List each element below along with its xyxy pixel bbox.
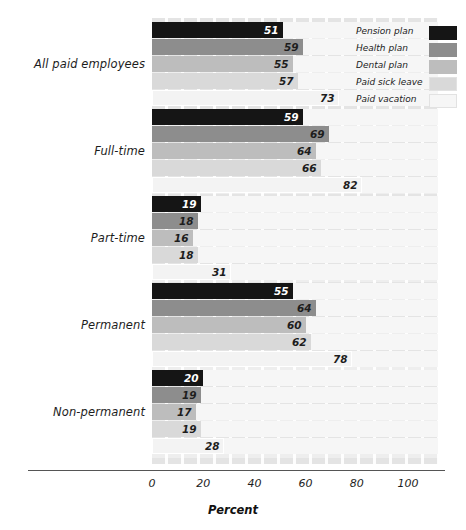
bar-row: 82	[152, 177, 438, 193]
legend-label: Dental plan	[356, 60, 408, 70]
legend-swatch	[429, 60, 457, 74]
bar-value-label: 28	[205, 439, 220, 453]
bar-value-label: 51	[264, 23, 279, 37]
bar-value-label: 31	[212, 265, 227, 279]
bar-row: 19	[152, 387, 438, 403]
bar-row: 28	[152, 438, 438, 454]
bar-pension-plan[interactable]	[152, 283, 293, 299]
bar-value-label: 19	[182, 422, 197, 436]
category-label: Non-permanent	[0, 405, 145, 419]
x-tick-label: 0	[149, 477, 156, 490]
bar-value-label: 18	[179, 248, 194, 262]
legend-label: Paid vacation	[356, 94, 417, 104]
category-label: Permanent	[0, 318, 145, 332]
bar-row: 20	[152, 370, 438, 386]
category-label: Part-time	[0, 231, 145, 245]
x-tick-label: 20	[196, 477, 210, 490]
legend-item[interactable]: Paid sick leave	[356, 76, 462, 93]
bar-dental-plan[interactable]	[152, 143, 316, 159]
bar-chart: All paid employees5159555773Full-time596…	[0, 0, 466, 530]
bar-value-label: 64	[297, 144, 312, 158]
bar-value-label: 19	[182, 388, 197, 402]
legend-item[interactable]: Pension plan	[356, 25, 462, 42]
bar-paid-sick-leave[interactable]	[152, 334, 311, 350]
x-tick-label: 40	[247, 477, 261, 490]
legend-swatch	[429, 43, 457, 57]
bar-row: 16	[152, 230, 438, 246]
bar-health-plan[interactable]	[152, 126, 329, 142]
legend-label: Health plan	[356, 43, 408, 53]
bar-row: 31	[152, 264, 438, 280]
x-tick-label: 60	[299, 477, 313, 490]
bar-value-label: 19	[182, 197, 197, 211]
bar-row: 59	[152, 109, 438, 125]
x-tick-label: 100	[398, 477, 419, 490]
bar-row: 17	[152, 404, 438, 420]
x-axis-title: Percent	[0, 503, 466, 517]
bar-row: 19	[152, 421, 438, 437]
bar-paid-sick-leave[interactable]	[152, 160, 321, 176]
bar-paid-sick-leave[interactable]	[152, 73, 298, 89]
bar-row: 62	[152, 334, 438, 350]
category-label: Full-time	[0, 144, 145, 158]
legend-item[interactable]: Health plan	[356, 42, 462, 59]
legend-swatch	[429, 94, 457, 108]
bar-row: 69	[152, 126, 438, 142]
bar-value-label: 78	[333, 352, 348, 366]
bar-health-plan[interactable]	[152, 39, 303, 55]
bar-value-label: 73	[320, 91, 335, 105]
bar-dental-plan[interactable]	[152, 56, 293, 72]
bar-row: 78	[152, 351, 438, 367]
bar-paid-vacation[interactable]	[152, 177, 362, 193]
category-label: All paid employees	[0, 57, 145, 71]
bar-row: 66	[152, 160, 438, 176]
bar-value-label: 82	[343, 178, 358, 192]
bar-value-label: 62	[292, 335, 307, 349]
bar-dental-plan[interactable]	[152, 317, 306, 333]
legend-swatch	[429, 77, 457, 91]
bar-value-label: 60	[287, 318, 302, 332]
bar-value-label: 59	[284, 110, 299, 124]
bar-paid-vacation[interactable]	[152, 90, 339, 106]
x-tick-label: 80	[350, 477, 364, 490]
bar-value-label: 69	[310, 127, 325, 141]
bar-pension-plan[interactable]	[152, 109, 303, 125]
legend-item[interactable]: Dental plan	[356, 59, 462, 76]
bar-row: 18	[152, 247, 438, 263]
x-axis-line	[28, 470, 445, 471]
legend-label: Pension plan	[356, 26, 413, 36]
bar-value-label: 59	[284, 40, 299, 54]
bar-paid-vacation[interactable]	[152, 351, 352, 367]
bar-value-label: 18	[179, 214, 194, 228]
bar-health-plan[interactable]	[152, 300, 316, 316]
bar-row: 60	[152, 317, 438, 333]
bar-row: 55	[152, 283, 438, 299]
bar-value-label: 17	[177, 405, 192, 419]
legend-label: Paid sick leave	[356, 77, 423, 87]
bar-value-label: 55	[274, 57, 289, 71]
bar-value-label: 66	[302, 161, 317, 175]
bar-row: 19	[152, 196, 438, 212]
legend-swatch	[429, 26, 457, 40]
bar-value-label: 57	[279, 74, 294, 88]
bar-row: 64	[152, 300, 438, 316]
bar-value-label: 16	[174, 231, 189, 245]
legend-item[interactable]: Paid vacation	[356, 93, 462, 110]
bar-value-label: 20	[184, 371, 199, 385]
bar-value-label: 64	[297, 301, 312, 315]
bar-value-label: 55	[274, 284, 289, 298]
bar-row: 64	[152, 143, 438, 159]
bar-row: 18	[152, 213, 438, 229]
